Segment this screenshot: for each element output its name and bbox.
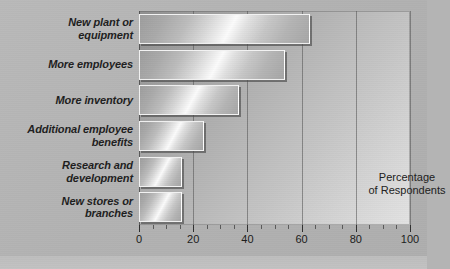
category-label-4: Research anddevelopment — [9, 159, 133, 184]
tick-minor-15 — [180, 225, 181, 229]
x-axis — [139, 225, 410, 233]
tick-minor-75 — [342, 225, 343, 229]
tick-minor-30 — [220, 225, 221, 229]
tick-minor-5 — [153, 225, 154, 229]
tick-major-20 — [193, 225, 194, 232]
bar-5[interactable] — [139, 192, 182, 222]
tick-minor-65 — [315, 225, 316, 229]
category-label-3: Additional employeebenefits — [9, 123, 133, 148]
category-label-line: development — [9, 172, 133, 185]
bar-2[interactable] — [139, 85, 239, 115]
category-label-2: More inventory — [9, 94, 133, 107]
top-caption — [150, 0, 390, 3]
bar-0[interactable] — [139, 14, 310, 44]
category-label-line: equipment — [9, 29, 133, 42]
tick-minor-45 — [261, 225, 262, 229]
tick-major-100 — [410, 225, 411, 232]
bar-row — [139, 121, 410, 151]
category-label-line: Additional employee — [9, 123, 133, 136]
category-label-line: Research and — [9, 159, 133, 172]
plot-annotation: Percentageof Respondents — [347, 171, 450, 197]
category-label-line: More employees — [9, 58, 133, 71]
tick-minor-90 — [383, 225, 384, 229]
category-label-0: New plant orequipment — [9, 16, 133, 41]
bar-1[interactable] — [139, 50, 285, 80]
tick-minor-95 — [396, 225, 397, 229]
tick-minor-55 — [288, 225, 289, 229]
tick-major-40 — [247, 225, 248, 232]
bar-row — [139, 85, 410, 115]
tick-minor-10 — [166, 225, 167, 229]
x-tick-label-40: 40 — [227, 233, 267, 245]
tick-major-80 — [356, 225, 357, 232]
tick-minor-50 — [275, 225, 276, 229]
category-label-line: benefits — [9, 136, 133, 149]
bar-3[interactable] — [139, 121, 204, 151]
x-tick-label-100: 100 — [390, 233, 430, 245]
category-label-line: More inventory — [9, 94, 133, 107]
category-label-line: New stores or — [9, 195, 133, 208]
tick-major-0 — [139, 225, 140, 232]
bar-4[interactable] — [139, 157, 182, 187]
tick-minor-85 — [369, 225, 370, 229]
tick-minor-70 — [329, 225, 330, 229]
plot-area: Percentageof Respondents — [139, 11, 410, 225]
category-label-1: More employees — [9, 58, 133, 71]
x-tick-label-80: 80 — [336, 233, 376, 245]
bottom-strip — [0, 256, 427, 269]
tick-minor-35 — [234, 225, 235, 229]
tick-minor-25 — [207, 225, 208, 229]
category-label-line: New plant or — [9, 16, 133, 29]
annotation-line: of Respondents — [347, 184, 450, 197]
annotation-line: Percentage — [347, 171, 450, 184]
x-tick-label-60: 60 — [282, 233, 322, 245]
category-label-5: New stores orbranches — [9, 195, 133, 220]
bar-row — [139, 50, 410, 80]
category-label-line: branches — [9, 207, 133, 220]
bar-row — [139, 14, 410, 44]
x-tick-label-0: 0 — [119, 233, 159, 245]
tick-major-60 — [302, 225, 303, 232]
x-tick-label-20: 20 — [173, 233, 213, 245]
